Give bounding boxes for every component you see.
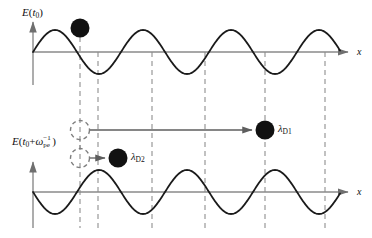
top-axis-E: E bbox=[22, 6, 29, 18]
bottom-axis-close-paren: ) bbox=[52, 135, 56, 147]
top-axis-close-paren: ) bbox=[39, 6, 43, 18]
lambda-d2-label: λD2 bbox=[131, 152, 145, 164]
electron-displaced-near bbox=[109, 149, 128, 168]
bottom-axis-omega: ω bbox=[35, 135, 43, 147]
physics-figure: E(t0) x E(t0+ω−1pe) x λD1 λD2 bbox=[0, 0, 372, 238]
bottom-y-axis-label: E(t0+ω−1pe) bbox=[12, 136, 56, 149]
top-y-axis-label: E(t0) bbox=[22, 7, 43, 20]
diagram-canvas bbox=[0, 0, 372, 238]
electron-top bbox=[71, 19, 90, 38]
top-x-axis-label: x bbox=[357, 47, 361, 57]
particles-group bbox=[71, 19, 275, 168]
omega-group: ω−1pe bbox=[35, 136, 43, 147]
bottom-axis-omega-subscript: pe bbox=[43, 142, 50, 149]
lambda-d1-label: λD1 bbox=[278, 124, 292, 136]
electron-displaced-far bbox=[256, 121, 275, 140]
bottom-x-axis-label: x bbox=[357, 187, 361, 197]
lambda-d2-subscript: D2 bbox=[136, 155, 145, 164]
bottom-axis-E: E bbox=[12, 135, 19, 147]
lambda-d1-subscript: D1 bbox=[283, 127, 292, 136]
